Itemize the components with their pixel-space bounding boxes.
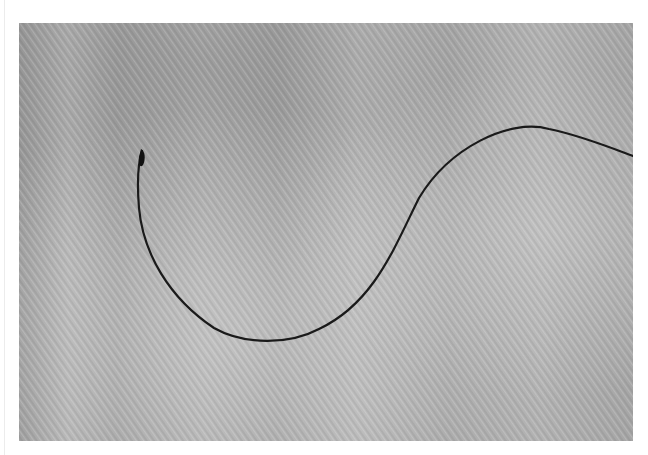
fabric-photo — [19, 23, 633, 441]
page-edge-line — [4, 0, 5, 455]
fabric-illustration — [19, 23, 633, 441]
